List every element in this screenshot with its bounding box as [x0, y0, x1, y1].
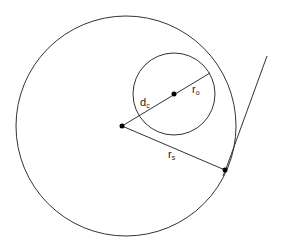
geometry-diagram: dc ro rs: [0, 0, 282, 247]
label-ro: ro: [192, 83, 200, 96]
outer-center-point: [120, 124, 125, 129]
outer-circle: [16, 16, 236, 236]
outer-radius-line: [122, 126, 225, 170]
label-dc: dc: [140, 96, 150, 109]
tangent-point: [223, 168, 228, 173]
label-rs: rs: [168, 148, 176, 161]
inner-center-point: [172, 92, 177, 97]
tangent-line: [227, 56, 267, 166]
